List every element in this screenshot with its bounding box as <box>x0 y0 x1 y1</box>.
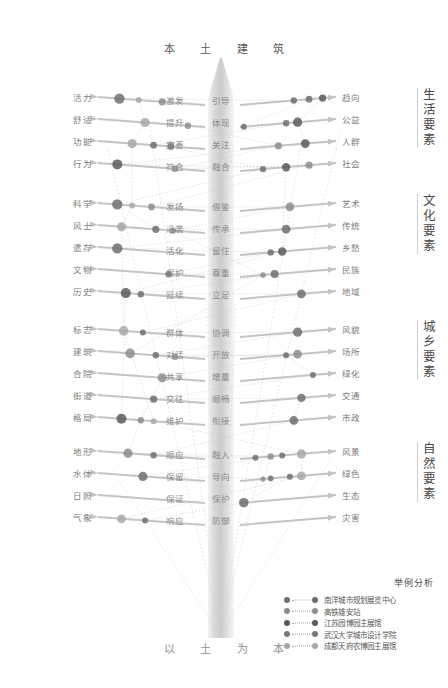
row-label-left: 水体 <box>73 467 92 479</box>
row-label-right: 绿色 <box>342 467 361 479</box>
row-verb-left: 提升 <box>166 116 185 128</box>
row-label-left: 舒适 <box>73 113 92 125</box>
row-verb-left: 响应 <box>166 514 185 526</box>
row-label-right: 地域 <box>342 285 361 297</box>
row-verb-right: 导向 <box>212 470 231 482</box>
legend-swatch-icon <box>282 594 324 605</box>
row-verb-right: 体现 <box>212 116 231 128</box>
row-label-left: 文物 <box>73 263 92 275</box>
row-verb-left: 群体 <box>166 326 185 338</box>
row-label-right: 灾害 <box>342 511 361 523</box>
row-label-left: 活力 <box>73 91 92 103</box>
row-label-left: 合院 <box>73 367 92 379</box>
row-verb-left: 延续 <box>166 288 185 300</box>
row-label-right: 交通 <box>342 389 361 401</box>
row-verb-right: 顺畅 <box>212 392 231 404</box>
row-verb-left: 完善 <box>166 138 185 150</box>
row-verb-right: 融合 <box>212 160 231 172</box>
row-label-right: 生态 <box>342 489 361 501</box>
row-label-right: 民族 <box>342 263 361 275</box>
row-label-left: 格局 <box>73 411 92 423</box>
legend-label: 南洋城市规划展览中心 <box>324 594 396 605</box>
row-verb-right: 留住 <box>212 244 231 256</box>
row-label-right: 艺术 <box>342 197 361 209</box>
diagram-canvas: 本 土 建 筑 活力趋向激发引导舒适公益提升体现功能人群完善关注行为社会符合融合… <box>0 0 448 688</box>
row-verb-left: 活化 <box>166 244 185 256</box>
row-label-right: 风貌 <box>342 323 361 335</box>
section-title: 文化要素 <box>417 194 438 254</box>
legend-label: 武汉大学城市设计学院 <box>324 629 396 640</box>
row-verb-right: 开放 <box>212 348 231 360</box>
row-verb-right: 引导 <box>212 94 231 106</box>
legend-item[interactable]: 南洋城市规划展览中心 <box>282 594 442 606</box>
section-title: 生活要素 <box>417 88 438 148</box>
section-title: 城乡要素 <box>417 320 438 380</box>
row-label-right: 乡愁 <box>342 241 361 253</box>
row-verb-left: 维护 <box>166 414 185 426</box>
row-label-left: 日照 <box>73 489 92 501</box>
row-verb-right: 立足 <box>212 288 231 300</box>
row-verb-right: 增量 <box>212 370 231 382</box>
row-label-right: 人群 <box>342 135 361 147</box>
row-verb-right: 借鉴 <box>212 200 231 212</box>
row-label-right: 风景 <box>342 445 361 457</box>
row-verb-left: 交往 <box>166 392 185 404</box>
legend-item[interactable]: 高铁雄安站 <box>282 606 442 618</box>
row-label-left: 科学 <box>73 197 92 209</box>
row-verb-left: 对话 <box>166 348 185 360</box>
row-label-right: 趋向 <box>342 91 361 103</box>
legend-swatch-icon <box>282 617 324 628</box>
row-verb-left: 发扬 <box>166 200 185 212</box>
legend-label: 江苏园博园主展馆 <box>324 617 382 628</box>
row-verb-left: 沿袭 <box>166 222 185 234</box>
row-label-right: 传统 <box>342 219 361 231</box>
row-label-right: 公益 <box>342 113 361 125</box>
row-verb-right: 传承 <box>212 222 231 234</box>
row-label-left: 气象 <box>73 511 92 523</box>
row-verb-right: 协调 <box>212 326 231 338</box>
row-verb-left: 保护 <box>166 266 185 278</box>
row-label-left: 街道 <box>73 389 92 401</box>
legend-item[interactable]: 江苏园博园主展馆 <box>282 617 442 629</box>
row-verb-right: 尊重 <box>212 266 231 278</box>
section-title: 自然要素 <box>417 442 438 502</box>
row-verb-right: 保护 <box>212 492 231 504</box>
row-label-left: 功能 <box>73 135 92 147</box>
row-verb-left: 保留 <box>166 470 185 482</box>
row-label-right: 社会 <box>342 157 361 169</box>
legend-title: 举例分析 <box>282 576 434 589</box>
legend-item[interactable]: 武汉大学城市设计学院 <box>282 629 442 641</box>
row-label-left: 标志 <box>73 323 92 335</box>
row-label-left: 遗存 <box>73 241 92 253</box>
row-verb-right: 融入 <box>212 448 231 460</box>
row-label-right: 市政 <box>342 411 361 423</box>
row-verb-right: 关注 <box>212 138 231 150</box>
page-title-bottom: 以 土 为 本 <box>0 640 448 656</box>
row-label-right: 场所 <box>342 345 361 357</box>
row-label-left: 行为 <box>73 157 92 169</box>
legend-swatch-icon <box>282 606 324 617</box>
row-verb-right: 衔接 <box>212 414 231 426</box>
row-verb-left: 顺应 <box>166 448 185 460</box>
row-verb-left: 共享 <box>166 370 185 382</box>
legend-swatch-icon <box>282 629 324 640</box>
row-label-left: 地形 <box>73 445 92 457</box>
row-verb-right: 防御 <box>212 514 231 526</box>
row-verb-left: 激发 <box>166 94 185 106</box>
row-verb-left: 符合 <box>166 160 185 172</box>
row-label-right: 绿化 <box>342 367 361 379</box>
row-verb-left: 保证 <box>166 492 185 504</box>
row-label-left: 建筑 <box>73 345 92 357</box>
legend-label: 高铁雄安站 <box>324 606 360 617</box>
row-label-left: 历史 <box>73 285 92 297</box>
row-label-left: 风土 <box>73 219 92 231</box>
